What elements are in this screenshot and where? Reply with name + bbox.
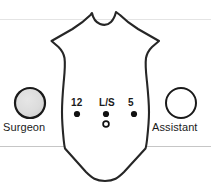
port-dot-ls[interactable] xyxy=(103,111,109,117)
port-label-ls: L/S xyxy=(99,98,115,108)
port-dot-12[interactable] xyxy=(74,111,80,117)
diagram-canvas: 12 L/S 5 Surgeon Assistant xyxy=(0,0,211,185)
surgeon-position-marker[interactable] xyxy=(15,88,45,118)
assistant-position-marker[interactable] xyxy=(166,88,196,118)
port-dot-5[interactable] xyxy=(131,111,137,117)
port-label-5: 5 xyxy=(128,98,134,108)
assistant-label: Assistant xyxy=(152,122,198,133)
port-label-12: 12 xyxy=(71,98,82,108)
port-placement-diagram xyxy=(0,0,211,185)
umbilicus-marker[interactable] xyxy=(103,121,109,127)
surgeon-label: Surgeon xyxy=(3,122,45,133)
